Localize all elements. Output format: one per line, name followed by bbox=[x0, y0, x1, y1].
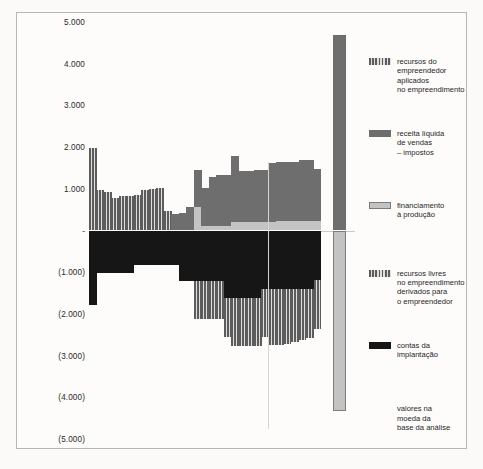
legend-swatch-light bbox=[369, 202, 391, 209]
plot-gridline bbox=[268, 162, 269, 429]
plot-bars bbox=[89, 22, 355, 439]
chart-figure: 5.0004.0003.0002.0001.000-(1.000)(2.000)… bbox=[16, 12, 467, 449]
y-axis: 5.0004.0003.0002.0001.000-(1.000)(2.000)… bbox=[23, 13, 85, 448]
legend-item[interactable]: recursos livres no empreendimento deriva… bbox=[369, 269, 467, 307]
bar-segment bbox=[314, 231, 322, 280]
bar-segment bbox=[314, 280, 322, 329]
legend-swatch-stripe bbox=[369, 58, 391, 65]
legend-item[interactable]: contas da implantação bbox=[369, 341, 467, 360]
total-bar-negative bbox=[333, 231, 346, 412]
legend-swatch-stripe bbox=[369, 270, 391, 277]
legend-label: contas da implantação bbox=[397, 341, 467, 360]
y-axis-tick: 2.000 bbox=[27, 143, 85, 152]
y-axis-tick: (5.000) bbox=[27, 435, 85, 444]
y-axis-tick: 5.000 bbox=[27, 18, 85, 27]
legend-label: receita líquida de vendas – impostos bbox=[397, 129, 467, 157]
bar-segment bbox=[314, 221, 322, 231]
legend-label: financiamento à produção bbox=[397, 201, 467, 220]
y-axis-tick: (1.000) bbox=[27, 268, 85, 277]
chart-legend: recursos do empreendedor aplicados no em… bbox=[369, 13, 467, 448]
legend-label: recursos do empreendedor aplicados no em… bbox=[397, 57, 467, 95]
legend-swatch-solid bbox=[369, 130, 391, 137]
legend-item[interactable]: recursos do empreendedor aplicados no em… bbox=[369, 57, 467, 95]
plot-area bbox=[89, 22, 355, 439]
legend-item[interactable]: receita líquida de vendas – impostos bbox=[369, 129, 467, 157]
y-axis-tick: (2.000) bbox=[27, 309, 85, 318]
total-bar-positive bbox=[333, 35, 346, 231]
currency-note: valores na moeda da base da análise bbox=[397, 404, 450, 432]
y-axis-tick: 4.000 bbox=[27, 59, 85, 68]
y-axis-tick: (4.000) bbox=[27, 393, 85, 402]
y-axis-tick: - bbox=[27, 226, 85, 235]
legend-swatch-black bbox=[369, 342, 391, 349]
bar-segment bbox=[314, 169, 322, 221]
legend-label: recursos livres no empreendimento deriva… bbox=[397, 269, 467, 307]
legend-item[interactable]: financiamento à produção bbox=[369, 201, 467, 220]
y-axis-tick: 1.000 bbox=[27, 184, 85, 193]
y-axis-tick: 3.000 bbox=[27, 101, 85, 110]
y-axis-tick: (3.000) bbox=[27, 351, 85, 360]
